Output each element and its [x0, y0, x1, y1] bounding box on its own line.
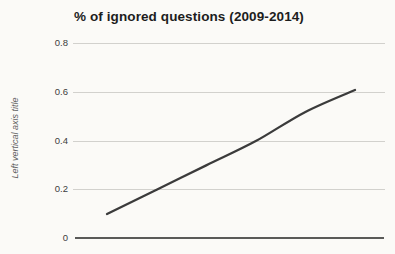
chart-panel: % of ignored questions (2009-2014) Left …: [0, 0, 395, 254]
chart-canvas: [0, 0, 395, 254]
series-line: [107, 90, 355, 214]
